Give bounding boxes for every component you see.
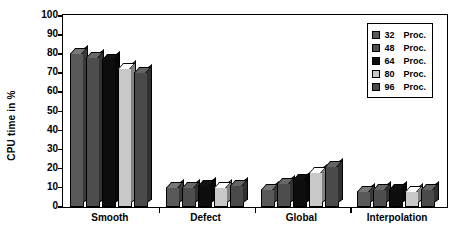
bar (293, 179, 307, 207)
legend-proc-unit: Proc. (403, 30, 426, 40)
cpu-time-bar-chart: CPU time in % 0102030405060708090100 32P… (0, 0, 466, 250)
y-tick-label: 50 (47, 105, 58, 116)
legend-item: 64Proc. (372, 54, 426, 67)
bar (373, 189, 387, 207)
bar (389, 189, 403, 207)
bar (405, 191, 419, 207)
legend-proc-unit: Proc. (403, 43, 426, 53)
legend-proc-unit: Proc. (403, 56, 426, 66)
legend-item: 80Proc. (372, 67, 426, 80)
y-tick-label: 90 (47, 28, 58, 39)
legend-proc-count: 64 (384, 56, 399, 66)
bar (421, 189, 435, 207)
y-tick-label: 10 (47, 181, 58, 192)
bar (118, 68, 132, 207)
bar (357, 191, 371, 207)
bar (102, 59, 116, 207)
legend: 32Proc.48Proc.64Proc.80Proc.96Proc. (367, 23, 433, 98)
y-tick-label: 100 (41, 9, 58, 20)
legend-swatch-icon (372, 70, 380, 78)
legend-swatch-icon (372, 31, 380, 39)
y-tick-label: 30 (47, 143, 58, 154)
legend-proc-count: 48 (384, 43, 399, 53)
legend-swatch-icon (372, 57, 380, 65)
bar-group (159, 15, 255, 207)
legend-swatch-icon (372, 83, 380, 91)
y-tick-label: 80 (47, 47, 58, 58)
bar (309, 172, 323, 207)
legend-item: 32Proc. (372, 28, 426, 41)
bar-side-face (338, 158, 343, 203)
bar (166, 187, 180, 207)
bar-group (63, 15, 159, 207)
y-tick-label: 20 (47, 162, 58, 173)
y-axis-title: CPU time in % (2, 50, 20, 200)
legend-item: 48Proc. (372, 41, 426, 54)
bar-side-face (147, 65, 152, 203)
x-axis-label-global: Global (254, 212, 350, 223)
bar (198, 185, 212, 207)
bar (230, 185, 244, 207)
bar (325, 166, 339, 207)
x-axis-labels: SmoothDefectGlobalInterpolation (62, 212, 448, 232)
bar (86, 57, 100, 207)
legend-proc-unit: Proc. (403, 69, 426, 79)
legend-proc-count: 96 (384, 82, 399, 92)
y-tick-label: 40 (47, 124, 58, 135)
x-axis-label-smooth: Smooth (62, 212, 158, 223)
y-tick-label: 0 (52, 200, 58, 211)
legend-proc-count: 80 (384, 69, 399, 79)
legend-swatch-icon (372, 44, 380, 52)
bar (70, 53, 84, 207)
bar (214, 187, 228, 207)
bar (182, 187, 196, 207)
y-tick-label: 70 (47, 66, 58, 77)
x-axis-label-interpolation: Interpolation (349, 212, 445, 223)
legend-proc-count: 32 (384, 30, 399, 40)
plot-area: 0102030405060708090100 32Proc.48Proc.64P… (62, 14, 448, 208)
legend-proc-unit: Proc. (403, 82, 426, 92)
bar (277, 183, 291, 207)
bar (134, 72, 148, 207)
y-tick-label: 60 (47, 85, 58, 96)
x-axis-label-defect: Defect (158, 212, 254, 223)
legend-item: 96Proc. (372, 80, 426, 93)
bar (261, 189, 275, 207)
bar-group (255, 15, 351, 207)
